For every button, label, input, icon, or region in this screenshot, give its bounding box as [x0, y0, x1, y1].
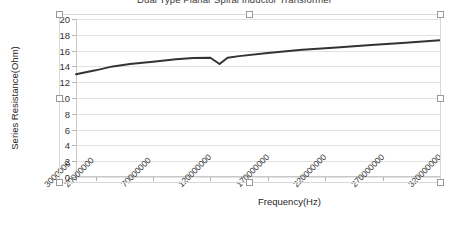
- chart-canvas: Dual Type Planar Spiral Inductor Transfo…: [0, 0, 469, 243]
- resize-handle[interactable]: [246, 11, 253, 18]
- resize-handle[interactable]: [56, 11, 63, 18]
- y-axis-tick: [72, 130, 76, 131]
- y-axis-tick: [72, 66, 76, 67]
- x-axis-tick: [96, 177, 97, 181]
- x-axis-tick: [268, 177, 269, 181]
- gridline: [76, 145, 440, 146]
- resize-handle[interactable]: [246, 179, 253, 186]
- resize-handle[interactable]: [56, 95, 63, 102]
- y-axis-tick-label: 12: [59, 77, 70, 88]
- gridline: [76, 82, 440, 83]
- y-axis-tick: [72, 161, 76, 162]
- y-axis-tick: [72, 19, 76, 20]
- y-axis-tick: [72, 35, 76, 36]
- gridline: [76, 114, 440, 115]
- resize-handle[interactable]: [56, 179, 63, 186]
- y-axis-tick: [72, 145, 76, 146]
- y-axis-tick-label: 18: [59, 29, 70, 40]
- y-axis-tick: [72, 98, 76, 99]
- gridline: [76, 66, 440, 67]
- y-axis-tick-label: 16: [59, 45, 70, 56]
- x-axis-tick: [325, 177, 326, 181]
- plot-area[interactable]: 20181614121086420: [76, 19, 440, 177]
- y-axis-tick-label: 4: [65, 140, 70, 151]
- y-axis-tick-label: 6: [65, 124, 70, 135]
- gridline: [76, 98, 440, 99]
- y-axis-tick: [72, 82, 76, 83]
- y-axis-tick-label: 14: [59, 61, 70, 72]
- y-axis-line: [76, 19, 77, 177]
- y-axis-title: Series Resistance(Ohm): [9, 46, 20, 149]
- series-line: [76, 40, 440, 74]
- resize-handle[interactable]: [437, 11, 444, 18]
- x-axis-tick: [153, 177, 154, 181]
- x-axis-tick: [383, 177, 384, 181]
- gridline: [76, 130, 440, 131]
- chart-title: Dual Type Planar Spiral Inductor Transfo…: [0, 0, 469, 5]
- gridline: [76, 51, 440, 52]
- y-axis-tick: [72, 51, 76, 52]
- gridline: [76, 35, 440, 36]
- x-axis-tick: [210, 177, 211, 181]
- y-axis-tick: [72, 114, 76, 115]
- resize-handle[interactable]: [437, 179, 444, 186]
- resize-handle[interactable]: [437, 95, 444, 102]
- gridline: [76, 19, 440, 20]
- y-axis-tick-label: 8: [65, 108, 70, 119]
- x-axis-title: Frequency(Hz): [258, 196, 321, 207]
